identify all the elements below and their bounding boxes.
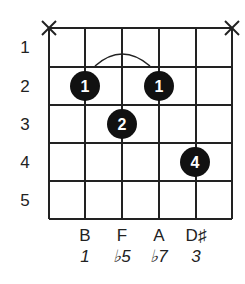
interval-string-2: 3 [191,247,201,266]
fret-label-2: 2 [20,77,29,96]
string-lines [49,28,232,219]
fret-label-4: 4 [20,153,29,172]
note-name-string-4: F [117,226,127,245]
finger-number: 1 [155,78,164,95]
finger-dot-string-5: 1 [70,71,100,101]
fret-label-3: 3 [20,115,29,134]
interval-string-5: 1 [80,247,89,266]
note-name-string-5: B [79,226,90,245]
finger-number: 2 [118,116,127,133]
interval-string-4: ♭5 [113,247,131,266]
finger-number: 1 [81,78,90,95]
finger-dot-string-4: 2 [107,109,137,139]
fret-label-1: 1 [20,38,29,57]
finger-number: 4 [191,154,200,171]
chord-diagram: 1 2 3 4 5 1 2 1 4 B F A D♯ 1 ♭5 ♭7 3 [0,0,245,284]
fret-label-5: 5 [20,191,29,210]
note-name-string-3: A [153,226,165,245]
finger-dot-string-2: 4 [180,147,210,177]
fret-lines [49,28,232,219]
finger-dot-string-3: 1 [144,71,174,101]
note-name-string-2: D♯ [186,226,207,245]
interval-string-3: ♭7 [150,247,168,266]
